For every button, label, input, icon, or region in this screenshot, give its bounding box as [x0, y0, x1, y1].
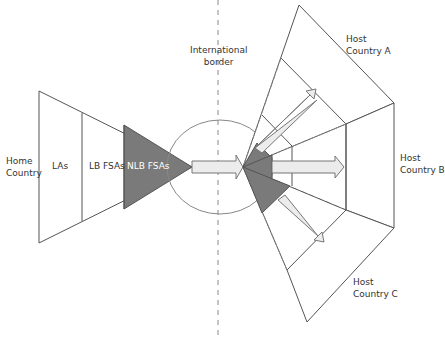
- main-arrow: [192, 155, 243, 179]
- lb-fsas-label: LB FSAs: [89, 160, 125, 172]
- host-c-label: Host Country C: [353, 276, 398, 300]
- las-label: LAs: [52, 160, 68, 172]
- international-border-label: International border: [190, 44, 247, 68]
- nlb-fsas-label: NLB FSAs: [127, 160, 170, 172]
- arrow-to-b: [272, 156, 344, 178]
- home-country-label: Home Country: [6, 155, 42, 179]
- host-a-label: Host Country A: [346, 33, 391, 57]
- host-b-label: Host Country B: [400, 152, 445, 176]
- host-b-region: [346, 103, 394, 228]
